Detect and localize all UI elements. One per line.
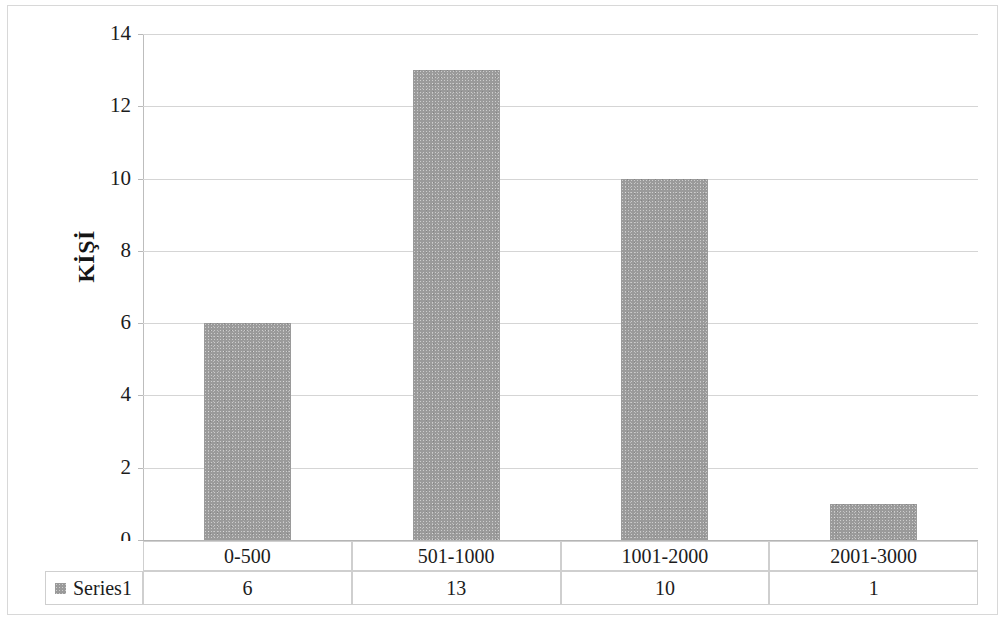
table-cell-value: 13 [352,571,561,605]
chart-container: KİŞİ 14121086420 0-500501-10001001-20002… [0,0,1005,623]
table-cell-value: 6 [143,571,352,605]
table-corner-cell [45,541,143,571]
y-axis-label: 6 [0,312,143,333]
y-axis-label: 12 [0,95,143,116]
legend-entry-series1[interactable]: Series1 [45,571,143,605]
table-cell-value: 1 [769,571,978,605]
y-axis-label: 10 [0,168,143,189]
table-cell-category: 501-1000 [352,541,561,571]
y-axis-label: 14 [0,23,143,44]
table-row-values: Series1 613101 [45,571,978,605]
plot-area [143,34,978,540]
bar[interactable] [830,504,917,540]
table-cell-category: 0-500 [143,541,352,571]
legend-label: Series1 [73,577,132,600]
table-row-categories: 0-500501-10001001-20002001-3000 [45,541,978,571]
data-table: 0-500501-10001001-20002001-3000 Series1 … [45,541,978,605]
y-axis-label: 2 [0,457,143,478]
bar[interactable] [621,179,708,540]
bar[interactable] [413,70,500,540]
table-cell-category: 2001-3000 [769,541,978,571]
y-axis-label: 8 [0,240,143,261]
bar[interactable] [204,323,291,540]
legend-swatch-icon [55,583,66,594]
y-axis-label: 4 [0,384,143,405]
table-cell-category: 1001-2000 [561,541,770,571]
table-cell-value: 10 [561,571,770,605]
